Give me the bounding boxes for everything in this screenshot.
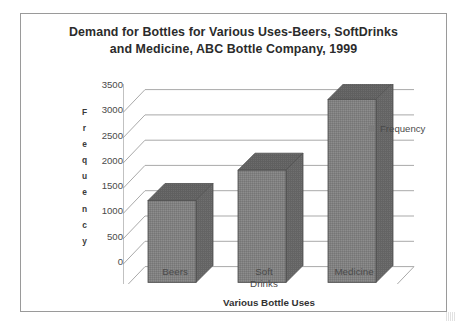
bar-chart-3d [123,84,419,284]
plot-area: F r e q u e n c y 3500 3000 2500 2000 15… [59,84,419,299]
scan-artifact [446,312,456,321]
bar-soft-drinks [238,153,303,282]
y-tick-label: 2000 [89,156,123,166]
y-axis-ticks: 3500 3000 2500 2000 1500 1000 500 0 [89,84,123,269]
x-label-soft-drinks-line-2: Drinks [219,278,309,290]
y-tick-label: 2500 [89,131,123,141]
x-label-medicine: Medicine [309,266,399,278]
chart-frame: Demand for Bottles for Various Uses-Beer… [20,13,447,312]
y-tick-label: 0 [89,257,123,267]
y-tick-label: 3000 [89,105,123,115]
y-tick-label: 500 [89,232,123,242]
y-tick-label: 1500 [89,181,123,191]
chart-title-line-1: Demand for Bottles for Various Uses-Beer… [21,24,446,41]
y-tick-label: 1000 [89,206,123,216]
legend-item-frequency: Frequency [380,123,425,134]
bar-medicine [328,84,393,283]
y-tick-label: 3500 [89,80,123,90]
frequency-swatch-icon [368,125,375,132]
x-axis-labels: Beers Soft Drinks Medicine [123,266,413,300]
x-label-soft-drinks: Soft Drinks [219,266,309,291]
x-label-beers: Beers [130,266,220,278]
chart-title: Demand for Bottles for Various Uses-Beer… [21,24,446,58]
chart-legend[interactable]: Frequency [368,123,425,134]
chart-title-line-2: and Medicine, ABC Bottle Company, 1999 [21,41,446,58]
x-label-soft-drinks-line-1: Soft [219,266,309,278]
x-axis-title: Various Bottle Uses [119,297,419,308]
